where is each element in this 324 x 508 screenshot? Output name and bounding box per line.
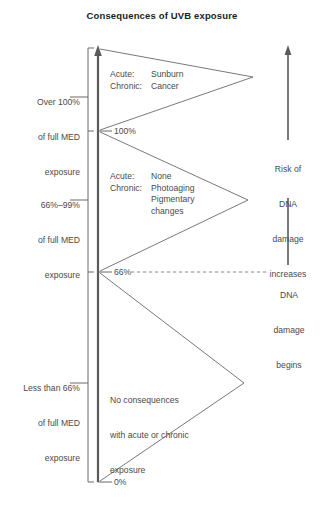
dna-damage-begins-caption: DNA damage begins [256, 267, 322, 395]
zone2-chronic-value-cont1: Pigmentary [151, 194, 195, 206]
zone1-chronic-term: Chronic: [110, 81, 148, 93]
zone-text-under-66: No consequences with acute or chronic ex… [110, 372, 189, 500]
axis-tick-label-66: 66% [114, 267, 131, 278]
zone-text-over-100: Acute: Sunburn Chronic: Cancer [110, 69, 184, 92]
zone2-chronic-value: Photoaging [151, 183, 195, 195]
zone1-chronic-value: Cancer [151, 81, 184, 93]
zone-text-66-99: Acute: None Chronic: Photoaging Pigmenta… [110, 171, 195, 217]
zone1-acute-term: Acute: [110, 69, 148, 81]
zone2-acute-value: None [151, 171, 195, 183]
zone2-chronic-term-cont2 [110, 206, 148, 218]
band-label-under-66: Less than 66% of full MED exposure [2, 360, 80, 488]
band-label-66-99: 66%–99% of full MED exposure [2, 177, 80, 305]
zone2-chronic-term-cont1 [110, 194, 148, 206]
med-axis [94, 45, 102, 482]
zone1-acute-value: Sunburn [151, 69, 184, 81]
uvb-consequences-figure: Consequences of UVB exposure [0, 0, 324, 508]
zone2-chronic-term: Chronic: [110, 183, 148, 195]
zone2-chronic-value-cont2: changes [151, 206, 195, 218]
zone2-acute-term: Acute: [110, 171, 148, 183]
axis-tick-label-100: 100% [114, 126, 136, 137]
